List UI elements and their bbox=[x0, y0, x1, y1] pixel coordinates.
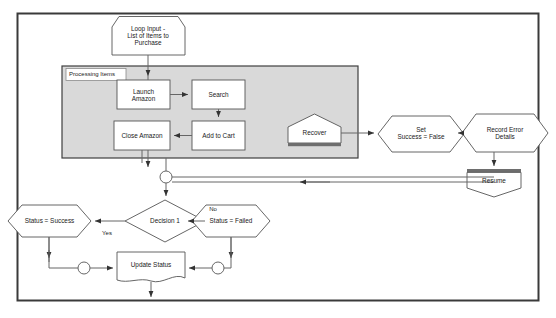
junction-left-circle bbox=[78, 262, 90, 274]
status-success-shape bbox=[8, 205, 91, 237]
add-to-cart-shape bbox=[192, 121, 245, 150]
set-success-false-shape bbox=[378, 116, 464, 152]
launch-amazon-shape bbox=[117, 80, 170, 109]
flowchart-page: Loop Input - List of Items to Purchase P… bbox=[0, 0, 556, 318]
flowchart-canvas bbox=[0, 0, 556, 318]
recover-base-bar bbox=[288, 143, 341, 146]
loop-input-shape bbox=[112, 17, 185, 56]
junction-top-circle bbox=[160, 171, 172, 183]
processing-items-label-box bbox=[66, 69, 126, 81]
junction-right-circle bbox=[212, 262, 224, 274]
close-amazon-shape bbox=[114, 121, 170, 150]
record-error-details-shape bbox=[462, 114, 548, 152]
resume-top-bar bbox=[467, 169, 521, 172]
search-shape bbox=[192, 80, 245, 109]
